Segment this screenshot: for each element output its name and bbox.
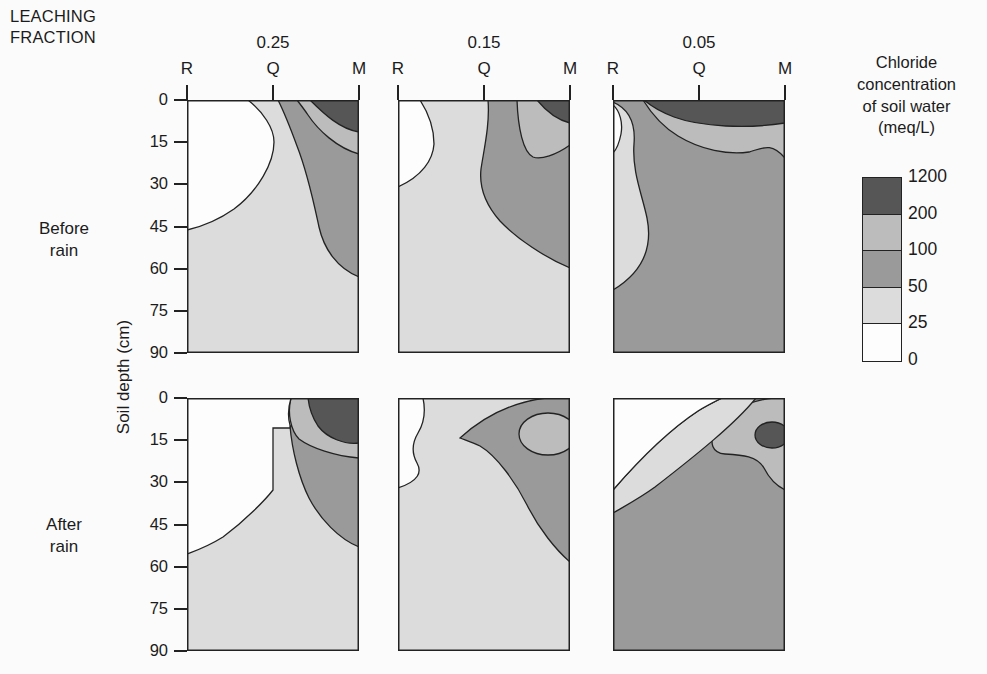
treatment-label-Q: Q	[258, 59, 288, 79]
treatment-tick-mark	[569, 85, 571, 100]
depth-tick-label-0: 0	[126, 388, 168, 407]
figure-title-line1: LEACHING	[10, 6, 96, 27]
depth-tick-label-60: 60	[126, 557, 168, 576]
depth-tick-label-15: 15	[126, 430, 168, 449]
treatment-label-R: R	[383, 59, 413, 79]
contour-panel-after-025	[187, 398, 359, 651]
depth-tick-mark	[174, 226, 187, 228]
treatment-label-Q: Q	[469, 59, 499, 79]
legend-scale-label-200: 200	[908, 203, 937, 224]
legend-cell-4	[863, 324, 901, 361]
legend-cell-1	[863, 215, 901, 252]
row-label-after-line1: After	[16, 514, 112, 536]
legend-cell-0	[863, 178, 901, 215]
treatment-tick-mark	[612, 85, 614, 100]
legend-title-line1: Chloride	[826, 52, 987, 74]
column-header-015: 0.15	[398, 33, 570, 53]
depth-tick-label-0: 0	[126, 90, 168, 109]
treatment-tick-mark	[272, 85, 274, 100]
treatment-label-M: M	[555, 59, 585, 79]
contour-panel-before-015	[398, 100, 570, 353]
depth-tick-mark	[174, 650, 187, 652]
depth-tick-mark	[174, 310, 187, 312]
treatment-tick-mark	[483, 85, 485, 100]
figure-canvas: LEACHING FRACTION 0.25 0.15 0.05 Before …	[0, 0, 987, 674]
column-header-025: 0.25	[187, 33, 359, 53]
depth-tick-mark	[174, 352, 187, 354]
treatment-tick-mark	[698, 85, 700, 100]
figure-title-line2: FRACTION	[10, 27, 96, 48]
depth-tick-label-45: 45	[126, 515, 168, 534]
figure-title: LEACHING FRACTION	[10, 6, 96, 48]
depth-tick-mark	[174, 481, 187, 483]
legend-scale-label-25: 25	[908, 312, 927, 333]
depth-tick-mark	[174, 183, 187, 185]
legend-title: Chloride concentration of soil water (me…	[826, 52, 987, 139]
depth-tick-label-90: 90	[126, 641, 168, 660]
legend-scale-label-100: 100	[908, 239, 937, 260]
treatment-tick-mark	[784, 85, 786, 100]
legend-scale-label-0: 0	[908, 349, 918, 370]
legend-title-line2: concentration	[826, 74, 987, 96]
row-label-before-rain: Before rain	[16, 218, 112, 263]
depth-tick-mark	[174, 439, 187, 441]
depth-tick-mark	[174, 608, 187, 610]
legend-title-line4: (meq/L)	[826, 117, 987, 139]
depth-tick-label-30: 30	[126, 472, 168, 491]
row-label-before-line2: rain	[16, 240, 112, 262]
treatment-label-Q: Q	[684, 59, 714, 79]
depth-tick-label-15: 15	[126, 132, 168, 151]
treatment-label-R: R	[598, 59, 628, 79]
depth-tick-mark	[174, 524, 187, 526]
depth-tick-label-45: 45	[126, 217, 168, 236]
treatment-tick-mark	[358, 85, 360, 100]
treatment-label-M: M	[770, 59, 800, 79]
legend-scale-label-50: 50	[908, 276, 927, 297]
depth-tick-label-75: 75	[126, 301, 168, 320]
depth-tick-label-30: 30	[126, 174, 168, 193]
treatment-tick-mark	[186, 85, 188, 100]
region-100-200	[519, 413, 570, 455]
depth-tick-mark	[174, 566, 187, 568]
treatment-label-M: M	[344, 59, 374, 79]
depth-tick-mark	[174, 397, 187, 399]
treatment-tick-mark	[397, 85, 399, 100]
depth-tick-mark	[174, 141, 187, 143]
contour-panel-after-015	[398, 398, 570, 651]
depth-tick-label-60: 60	[126, 259, 168, 278]
depth-tick-label-90: 90	[126, 343, 168, 362]
legend-cell-2	[863, 251, 901, 288]
depth-tick-mark	[174, 268, 187, 270]
contour-panel-after-005	[613, 398, 785, 651]
legend-cell-3	[863, 288, 901, 325]
row-label-before-line1: Before	[16, 218, 112, 240]
contour-panel-before-005	[613, 100, 785, 353]
column-header-005: 0.05	[613, 33, 785, 53]
contour-panel-before-025	[187, 100, 359, 353]
treatment-label-R: R	[172, 59, 202, 79]
legend-title-line3: of soil water	[826, 96, 987, 118]
row-label-after-line2: rain	[16, 536, 112, 558]
legend-scale-label-1200: 1200	[908, 166, 947, 187]
row-label-after-rain: After rain	[16, 514, 112, 559]
legend-colorbar	[862, 177, 902, 362]
depth-tick-label-75: 75	[126, 599, 168, 618]
region-200-1200	[755, 422, 785, 448]
